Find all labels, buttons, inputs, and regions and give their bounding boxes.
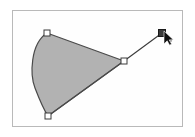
- handle-arc-center[interactable]: [121, 58, 127, 64]
- handle-arc-end[interactable]: [45, 113, 51, 119]
- app-root: Arc Shape Editing Canvas: [0, 0, 195, 137]
- drawing-surface[interactable]: [0, 0, 195, 137]
- handle-arc-start[interactable]: [44, 30, 50, 36]
